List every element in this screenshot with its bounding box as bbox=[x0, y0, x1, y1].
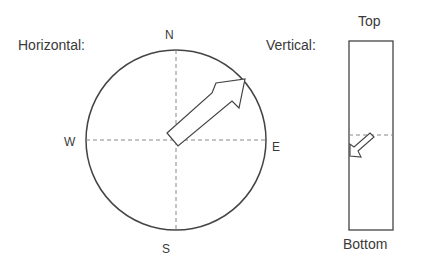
south-label: S bbox=[162, 242, 170, 256]
horizontal-arrow-icon bbox=[167, 79, 245, 146]
east-label: E bbox=[272, 140, 280, 154]
north-label: N bbox=[165, 28, 174, 42]
vertical-arrow-icon bbox=[350, 133, 374, 157]
vertical-title: Vertical: bbox=[266, 37, 316, 53]
bottom-label: Bottom bbox=[343, 236, 387, 252]
horizontal-title: Horizontal: bbox=[18, 37, 85, 53]
west-label: W bbox=[64, 135, 75, 149]
top-label: Top bbox=[358, 13, 381, 29]
